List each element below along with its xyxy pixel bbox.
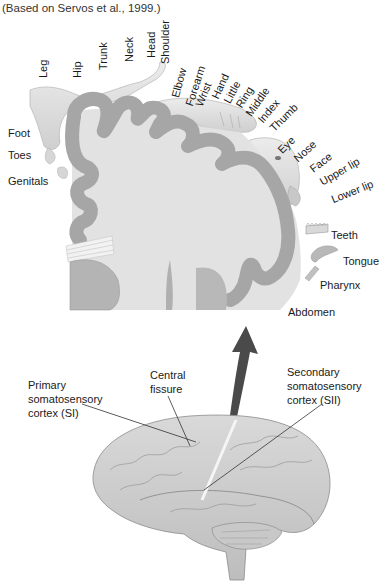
body-part-label-abdomen: Abdomen bbox=[288, 307, 335, 318]
body-part-label-trunk: Trunk bbox=[98, 42, 109, 70]
central-fissure-label: Central fissure bbox=[150, 368, 185, 396]
body-part-label-teeth: Teeth bbox=[331, 230, 358, 241]
body-part-label-neck: Neck bbox=[124, 37, 135, 62]
body-part-label-head: Head bbox=[146, 32, 157, 58]
body-part-label-pharynx: Pharynx bbox=[320, 280, 360, 291]
brain-lateral-view bbox=[93, 415, 330, 580]
body-part-label-leg: Leg bbox=[38, 60, 49, 78]
body-part-label-toes: Toes bbox=[8, 150, 31, 161]
body-part-label-shoulder: Shoulder bbox=[160, 20, 171, 64]
primary-somatosensory-label: Primary somatosensory cortex (SI) bbox=[28, 378, 103, 420]
body-part-label-genitals: Genitals bbox=[8, 176, 48, 187]
body-part-label-foot: Foot bbox=[8, 128, 30, 139]
body-part-label-tongue: Tongue bbox=[343, 256, 379, 267]
secondary-somatosensory-label: Secondary somatosensory cortex (SII) bbox=[287, 365, 362, 407]
cortex-cross-section bbox=[66, 99, 301, 310]
body-part-label-hip: Hip bbox=[72, 61, 83, 78]
